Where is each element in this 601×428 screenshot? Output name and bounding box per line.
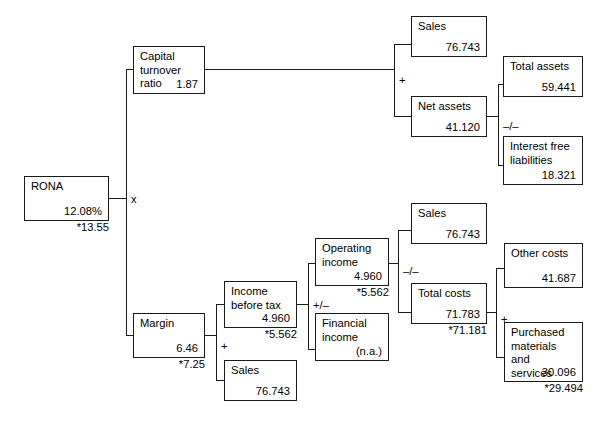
connector-income-to-financial	[308, 349, 315, 350]
connector-total-costs-bus	[496, 268, 497, 357]
node-sales-mid-label: Sales	[418, 207, 482, 221]
node-rona[interactable]: RONA 12.08%	[24, 176, 109, 221]
node-purchased-materials-and-services[interactable]: Purchased materials and services 30.096	[504, 322, 583, 382]
node-net-assets-label: Net assets	[418, 100, 482, 114]
connector-capital-turnover-to-sales	[394, 44, 411, 45]
node-financial-income[interactable]: Financial income (n.a.)	[315, 313, 389, 361]
node-other-costs-label: Other costs	[511, 247, 578, 261]
operator-net-assets-split: –/–	[503, 121, 519, 132]
connector-capital-turnover-bus	[394, 44, 395, 116]
node-sales-margin-value: 76.743	[256, 385, 290, 399]
node-margin-value: 6.46	[176, 342, 198, 356]
operator-income-before-tax-split: +/–	[313, 300, 329, 311]
node-total-assets-label: Total assets	[510, 60, 578, 74]
connector-net-assets-out	[487, 116, 498, 117]
node-sales-margin[interactable]: Sales 76.743	[224, 360, 297, 401]
node-other-costs-value: 41.687	[542, 272, 576, 286]
node-margin-label: Margin	[140, 317, 200, 331]
node-income-before-tax-note: *5.562	[224, 328, 297, 341]
node-total-costs[interactable]: Total costs 71.783	[411, 283, 487, 324]
node-margin[interactable]: Margin 6.46	[133, 313, 205, 358]
connector-income-before-tax-out	[297, 304, 308, 305]
connector-income-before-tax-bus	[308, 263, 309, 349]
node-total-assets-value: 59.441	[542, 81, 576, 95]
node-total-costs-value: 71.783	[446, 308, 480, 322]
node-net-assets-value: 41.120	[446, 121, 480, 135]
connector-operating-to-total-costs	[398, 312, 411, 313]
operator-rona-split: x	[131, 194, 137, 205]
node-margin-note: *7.25	[133, 358, 205, 371]
node-income-before-tax-value: 4.960	[262, 312, 290, 326]
node-financial-income-label: Financial income	[322, 317, 384, 344]
connector-rona-to-capital-turnover	[126, 69, 133, 70]
node-rona-note: *13.55	[24, 221, 109, 234]
node-income-before-tax-label: Income before tax	[231, 285, 292, 312]
connector-margin-out	[205, 335, 216, 336]
connector-net-assets-bus	[498, 84, 499, 165]
node-sales-margin-label: Sales	[231, 364, 292, 378]
operator-capital-turnover-split: +	[399, 75, 406, 86]
connector-capital-turnover-out	[205, 69, 394, 70]
connector-rona-bus	[126, 69, 127, 335]
operator-total-costs-split: +	[501, 314, 508, 325]
node-purchased-materials-and-services-value: 30.096	[542, 366, 576, 380]
node-capital-turnover-ratio[interactable]: Capital turnover ratio 1.87	[133, 46, 205, 94]
connector-margin-to-sales	[216, 380, 224, 381]
connector-capital-turnover-to-net-assets	[394, 116, 411, 117]
node-operating-income-note: *5.562	[315, 286, 389, 299]
node-operating-income-label: Operating income	[322, 242, 384, 269]
node-other-costs[interactable]: Other costs 41.687	[504, 243, 583, 288]
node-purchased-materials-and-services-note: *29.494	[504, 382, 583, 395]
connector-rona-to-margin	[126, 335, 133, 336]
connector-operating-income-bus	[398, 230, 399, 312]
node-income-before-tax[interactable]: Income before tax 4.960	[224, 281, 297, 328]
node-sales-mid-value: 76.743	[446, 228, 480, 242]
operator-margin-split: +	[221, 341, 228, 352]
node-net-assets[interactable]: Net assets 41.120	[411, 96, 487, 137]
connector-rona-out	[109, 198, 126, 199]
connector-income-to-operating	[308, 263, 315, 264]
connector-operating-to-sales	[398, 230, 411, 231]
connector-margin-bus	[216, 304, 217, 380]
node-rona-label: RONA	[31, 180, 104, 194]
connector-total-costs-to-other-costs	[496, 268, 504, 269]
connector-operating-income-out	[389, 263, 398, 264]
node-interest-free-liabilities-label: Interest free liabilities	[510, 140, 578, 167]
connector-total-costs-to-purchased	[496, 357, 504, 358]
operator-operating-income-split: –/–	[403, 266, 419, 277]
node-total-costs-note: *71.181	[411, 324, 487, 337]
node-sales-top[interactable]: Sales 76.743	[411, 16, 487, 57]
node-financial-income-value: (n.a.)	[356, 345, 382, 359]
rona-tree-diagram: x + –/– + +/– –/– + RONA 12.08% *13.55 C…	[0, 0, 601, 428]
node-total-assets[interactable]: Total assets 59.441	[503, 56, 583, 97]
node-operating-income-value: 4.960	[354, 270, 382, 284]
node-rona-value: 12.08%	[64, 205, 102, 219]
node-sales-top-value: 76.743	[446, 41, 480, 55]
node-operating-income[interactable]: Operating income 4.960	[315, 238, 389, 286]
node-sales-mid[interactable]: Sales 76.743	[411, 203, 487, 244]
node-capital-turnover-ratio-value: 1.87	[176, 78, 198, 92]
node-interest-free-liabilities-value: 18.321	[542, 169, 576, 183]
node-sales-top-label: Sales	[418, 20, 482, 34]
connector-margin-to-income-before-tax	[216, 304, 224, 305]
connector-total-costs-out	[487, 312, 496, 313]
node-total-costs-label: Total costs	[418, 287, 482, 301]
node-interest-free-liabilities[interactable]: Interest free liabilities 18.321	[503, 136, 583, 185]
